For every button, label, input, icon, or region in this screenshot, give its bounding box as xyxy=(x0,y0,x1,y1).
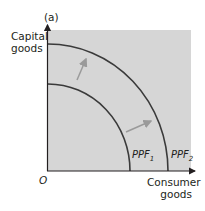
plot-background xyxy=(48,30,191,171)
panel-label: (a) xyxy=(44,11,59,23)
x-axis-label-line2: goods xyxy=(147,188,192,200)
origin-label: O xyxy=(39,174,47,186)
ppf2-name: PPF xyxy=(171,149,189,160)
ppf2-subscript: 2 xyxy=(189,155,193,163)
ppf1-name: PPF xyxy=(132,149,150,160)
ppf2-label: PPF2 xyxy=(171,149,193,165)
x-axis-label-line1: Consumer xyxy=(147,176,192,188)
ppf1-label: PPF1 xyxy=(132,149,154,165)
y-axis-label-line2: goods xyxy=(11,42,43,54)
ppf1-subscript: 1 xyxy=(150,155,154,163)
y-axis-label-line1: Capital xyxy=(11,30,48,42)
